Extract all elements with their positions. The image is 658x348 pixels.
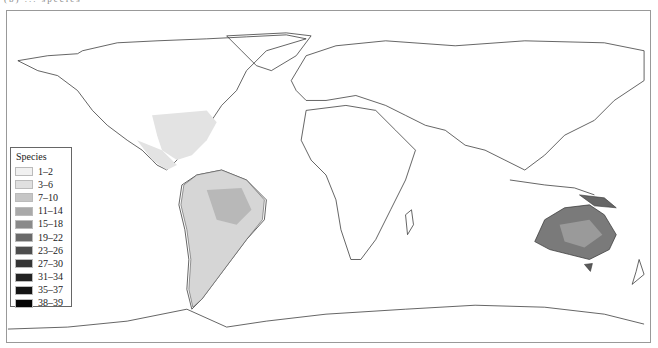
legend: Species 1–2 3–6 7–10 11–14 15–18 19–22 2… — [10, 147, 72, 307]
legend-item: 7–10 — [15, 191, 67, 204]
legend-item: 38–39 — [15, 297, 67, 310]
legend-swatch — [15, 193, 33, 202]
legend-swatch — [15, 233, 33, 242]
legend-swatch — [15, 286, 33, 295]
legend-swatch — [15, 259, 33, 268]
madagascar-outline — [406, 210, 414, 235]
legend-swatch — [15, 273, 33, 282]
indonesia-outline — [510, 180, 594, 195]
legend-item: 19–22 — [15, 231, 67, 244]
legend-swatch — [15, 180, 33, 189]
legend-item: 35–37 — [15, 284, 67, 297]
legend-item: 31–34 — [15, 271, 67, 284]
map-canvas — [7, 11, 650, 342]
greenland-outline — [227, 33, 311, 71]
legend-swatch — [15, 246, 33, 255]
legend-title: Species — [16, 151, 67, 162]
legend-swatch — [15, 220, 33, 229]
legend-item: 15–18 — [15, 218, 67, 231]
new-zealand-outline — [632, 259, 644, 284]
africa-outline — [301, 105, 415, 259]
legend-item: 23–26 — [15, 244, 67, 257]
legend-swatch — [15, 207, 33, 216]
tasmania — [584, 263, 592, 271]
panel-label: (b) ... species — [4, 0, 82, 4]
legend-item: 11–14 — [15, 205, 67, 218]
world-map — [6, 10, 651, 343]
antarctica-outline — [8, 305, 644, 329]
legend-item: 3–6 — [15, 178, 67, 191]
legend-item: 27–30 — [15, 257, 67, 270]
legend-swatch — [15, 167, 33, 176]
legend-item: 1–2 — [15, 165, 67, 178]
legend-swatch — [15, 299, 33, 308]
